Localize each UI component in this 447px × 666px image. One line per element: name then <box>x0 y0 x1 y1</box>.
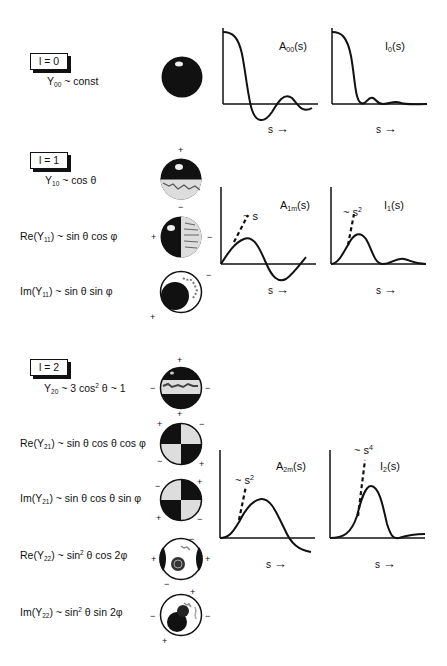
sign-minus: − <box>150 612 155 621</box>
graph-i2-xlabel: s → <box>375 556 396 571</box>
graph-a1m-asymptote: ~ s <box>243 210 258 222</box>
sign-minus: − <box>164 580 169 589</box>
sign-minus: − <box>178 203 183 212</box>
eq-y00: Y00 ~ const <box>47 75 98 88</box>
sign-plus: + <box>162 637 167 646</box>
sign-minus: − <box>199 420 204 429</box>
sign-plus: + <box>150 313 155 322</box>
l1-label: l = 1 <box>39 154 59 166</box>
sign-minus: − <box>207 233 212 242</box>
sign-minus: − <box>197 515 202 524</box>
sphere-im-y11 <box>159 270 203 314</box>
sign-plus: + <box>177 356 182 365</box>
graph-i0-xlabel: s → <box>376 121 397 136</box>
l2-label-box: l = 2 <box>30 359 68 376</box>
sphere-y20 <box>159 366 203 410</box>
sign-plus: + <box>177 410 182 419</box>
sign-plus: + <box>157 420 162 429</box>
graph-a2m-xlabel: s → <box>266 556 287 571</box>
sphere-re-y21 <box>159 422 203 466</box>
graph-i1 <box>330 187 430 277</box>
sphere-re-y11 <box>159 215 203 259</box>
sign-plus: + <box>151 233 156 242</box>
l0-label-box: l = 0 <box>30 53 68 70</box>
sign-minus: − <box>205 612 210 621</box>
graph-a00-title: A00(s) <box>279 40 307 53</box>
sign-plus: + <box>156 514 161 523</box>
graph-a00 <box>222 28 322 118</box>
sphere-re-y22 <box>159 537 203 581</box>
l2-label: l = 2 <box>39 361 59 373</box>
sign-plus: + <box>199 460 204 469</box>
graph-i2 <box>329 450 429 560</box>
graph-i1-title: I1(s) <box>384 199 404 212</box>
eq-y20: Y20 ~ 3 cos2 θ ~ 1 <box>44 382 126 395</box>
l1-label-box: l = 1 <box>30 152 68 169</box>
graph-a00-xlabel: s → <box>268 121 289 136</box>
graph-a1m-xlabel: s → <box>268 282 289 297</box>
graph-i1-xlabel: s → <box>376 282 397 297</box>
graph-i0 <box>331 28 431 118</box>
sign-minus: − <box>205 384 210 393</box>
sign-minus: − <box>189 535 194 544</box>
sign-plus: + <box>197 478 202 487</box>
graph-i0-title: I0(s) <box>385 40 405 53</box>
sign-minus: − <box>157 457 162 466</box>
eq-re-y21: Re(Y21) ~ sin θ cos θ cos φ <box>20 437 146 450</box>
eq-im-y11: Im(Y11) ~ sin θ sin φ <box>20 285 113 298</box>
sphere-im-y22 <box>159 593 203 637</box>
l0-label: l = 0 <box>39 55 59 67</box>
sign-plus: + <box>190 588 195 597</box>
sphere-y00 <box>160 55 204 99</box>
graph-a1m-title: A1m(s) <box>280 199 310 212</box>
sign-minus: − <box>155 482 160 491</box>
sign-minus: − <box>206 271 211 280</box>
graph-a2m-title: A2m(s) <box>276 460 306 473</box>
eq-y10: Y10 ~ cos θ <box>45 174 96 187</box>
eq-re-y11: Re(Y11) ~ sin θ cos φ <box>20 230 117 243</box>
sign-plus: + <box>178 146 183 155</box>
eq-re-y22: Re(Y22) ~ sin2 θ cos 2φ <box>20 549 127 562</box>
sign-plus: + <box>205 555 210 564</box>
graph-i2-asymptote: ~ s4 <box>354 444 373 456</box>
graph-a2m-asymptote: ~ s2 <box>235 474 254 486</box>
graph-i2-title: I2(s) <box>380 460 400 473</box>
sign-minus: − <box>150 384 155 393</box>
sphere-y10 <box>159 157 203 201</box>
eq-im-y22: Im(Y22) ~ sin2 θ sin 2φ <box>20 606 123 619</box>
sign-plus: + <box>151 555 156 564</box>
graph-i1-asymptote: ~ s2 <box>343 206 362 218</box>
eq-im-y21: Im(Y21) ~ sin θ cos θ sin φ <box>20 492 141 505</box>
